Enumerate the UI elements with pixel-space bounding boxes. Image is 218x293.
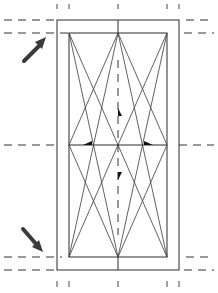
marker-down-icon [118, 172, 122, 180]
marker-up-icon [118, 108, 122, 116]
upper-left-arrow-icon [24, 37, 46, 61]
marker-left-icon [83, 141, 92, 145]
marker-right-icon [144, 141, 153, 145]
window-diagram [0, 0, 218, 293]
lower-left-arrow-icon [23, 229, 43, 252]
top-ticks [57, 4, 179, 9]
bottom-ticks [57, 281, 179, 287]
